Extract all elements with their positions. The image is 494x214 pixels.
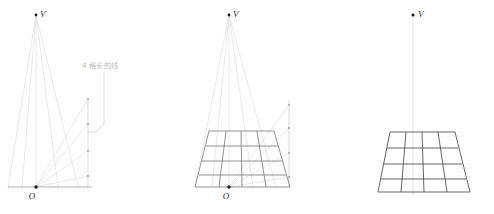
panel-1-converging-rays bbox=[8, 15, 78, 187]
measuring-tick bbox=[87, 150, 89, 152]
panel-3-grid-verticals bbox=[378, 132, 470, 192]
grid-column-line bbox=[219, 131, 226, 187]
perspective-grid-figure: 4 格长的线 V O bbox=[0, 0, 494, 214]
grid-column-line bbox=[438, 132, 447, 192]
annotation-label: 4 格长的线 bbox=[82, 61, 118, 70]
panel-2-origin-dot bbox=[227, 185, 230, 188]
ray-line bbox=[36, 15, 58, 187]
grid-column-line bbox=[257, 131, 266, 187]
grid-column-line bbox=[378, 132, 390, 192]
panel-2: V O bbox=[195, 9, 290, 201]
panel-2-vanishing-point-label: V bbox=[233, 9, 240, 19]
panel-2-origin-label: O bbox=[223, 191, 230, 201]
panel-1-annotation-bracket bbox=[88, 72, 104, 132]
panel-1-vanishing-point-dot bbox=[35, 14, 38, 17]
bracket-path bbox=[88, 72, 104, 132]
panel-3-vanishing-point-label: V bbox=[418, 9, 425, 19]
panel-1-origin-label: O bbox=[29, 191, 36, 201]
diagonal-ray bbox=[229, 128, 289, 187]
grid-column-line bbox=[195, 131, 209, 187]
measuring-tick bbox=[87, 123, 89, 125]
measuring-tick bbox=[87, 175, 89, 177]
grid-column-line bbox=[241, 131, 242, 187]
panel-1-origin-dot bbox=[34, 185, 37, 188]
panel-2-grid-horizontals bbox=[195, 131, 290, 187]
grid-column-line bbox=[401, 132, 406, 192]
figure-canvas: 4 格长的线 V O bbox=[0, 0, 494, 214]
grid-column-line bbox=[422, 132, 424, 192]
panel-1-vanishing-point-label: V bbox=[40, 9, 47, 19]
measuring-tick bbox=[288, 152, 290, 154]
measuring-tick bbox=[87, 98, 89, 100]
panel-2-grid-verticals bbox=[195, 131, 290, 187]
panel-3: V bbox=[378, 9, 470, 196]
grid-column-line bbox=[274, 131, 290, 187]
measuring-tick bbox=[288, 176, 290, 178]
ray-line bbox=[8, 15, 36, 187]
panel-1: 4 格长的线 V O bbox=[8, 9, 118, 201]
panel-2-vanishing-point-dot bbox=[228, 14, 231, 17]
grid-column-line bbox=[455, 132, 470, 192]
panel-1-diagonal-rays bbox=[36, 99, 88, 187]
measuring-tick bbox=[288, 127, 290, 129]
diagonal-ray bbox=[36, 99, 88, 187]
ray-line bbox=[22, 15, 36, 187]
panel-3-vanishing-point-dot bbox=[412, 14, 415, 17]
measuring-tick bbox=[288, 104, 290, 106]
